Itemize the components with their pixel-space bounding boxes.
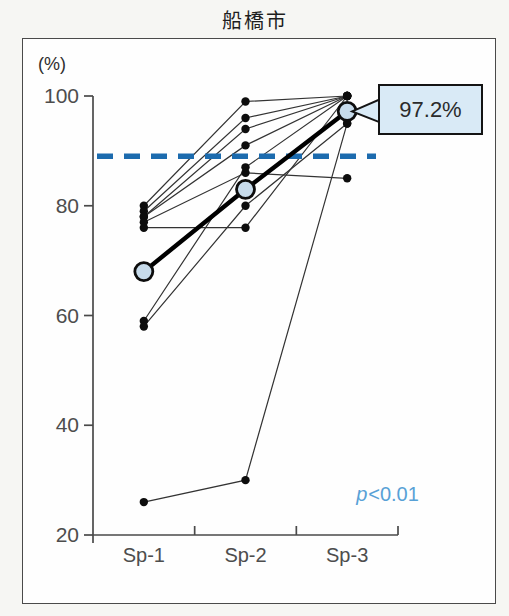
svg-text:80: 80 [56, 194, 79, 217]
svg-text:60: 60 [56, 304, 79, 327]
svg-text:Sp-3: Sp-3 [326, 544, 368, 566]
p-value-rest: <0.01 [368, 483, 419, 505]
svg-text:40: 40 [56, 413, 79, 436]
svg-text:100: 100 [44, 84, 79, 107]
scanned-chart-page: 船橋市 20406080100Sp-1Sp-2Sp-3 (%) 97.2% p<… [0, 0, 509, 616]
svg-text:20: 20 [56, 523, 79, 546]
svg-text:Sp-1: Sp-1 [123, 544, 165, 566]
svg-text:Sp-2: Sp-2 [224, 544, 266, 566]
y-axis-unit-label: (%) [38, 54, 66, 75]
p-value-symbol: p [356, 483, 368, 505]
annotation-callout-label: 97.2% [399, 97, 461, 123]
annotation-callout: 97.2% [378, 84, 483, 135]
p-value-label: p<0.01 [330, 483, 445, 506]
